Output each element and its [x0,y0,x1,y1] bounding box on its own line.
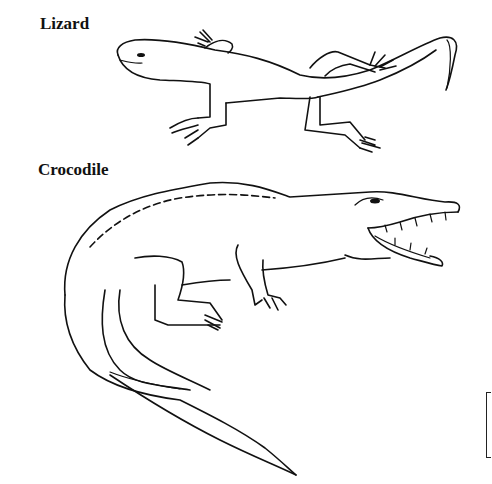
lizard-drawing [117,30,456,152]
edge-bracket [486,392,491,458]
drawing-canvas [0,0,492,484]
crocodile-drawing [65,182,460,475]
